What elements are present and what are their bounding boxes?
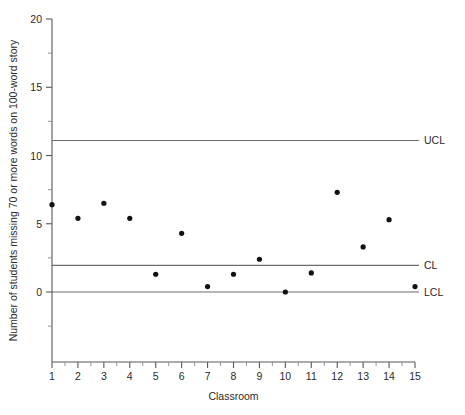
y-axis-title: Number of students missing 70 or more wo…	[7, 39, 19, 341]
data-point	[386, 217, 391, 222]
x-tick-label: 8	[231, 370, 237, 382]
control-limit-lines	[52, 140, 419, 292]
x-tick-label: 9	[257, 370, 263, 382]
x-tick-label: 7	[205, 370, 211, 382]
limit-label-ucl: UCL	[424, 134, 445, 146]
data-point	[257, 257, 262, 262]
data-point	[231, 272, 236, 277]
limit-label-lcl: LCL	[424, 286, 443, 298]
chart-axes	[52, 19, 415, 362]
control-chart: 05101520 123456789101112131415 UCLCLLCLC…	[0, 0, 465, 415]
y-tick-label: 0	[36, 286, 42, 298]
x-tick-label: 10	[280, 370, 292, 382]
data-point	[127, 216, 132, 221]
x-tick-label: 13	[357, 370, 369, 382]
y-tick-label: 20	[30, 13, 42, 25]
limit-label-cl: CL	[424, 259, 438, 271]
x-tick-label: 6	[179, 370, 185, 382]
data-point	[309, 270, 314, 275]
x-tick-label: 11	[306, 370, 317, 382]
x-tick-label: 14	[383, 370, 395, 382]
data-point	[412, 284, 417, 289]
chart-labels: UCLCLLCLClassroomNumber of students miss…	[7, 39, 445, 402]
x-tick-label: 5	[153, 370, 159, 382]
y-tick-label: 10	[30, 150, 42, 162]
data-point	[361, 244, 366, 249]
y-axis-ticks: 05101520	[30, 13, 52, 326]
data-point	[49, 202, 54, 207]
data-point	[153, 272, 158, 277]
data-point	[101, 201, 106, 206]
y-tick-label: 5	[36, 218, 42, 230]
data-point	[283, 289, 288, 294]
x-tick-label: 15	[409, 370, 421, 382]
data-point	[335, 190, 340, 195]
x-tick-label: 2	[75, 370, 81, 382]
x-tick-label: 3	[101, 370, 107, 382]
x-axis-ticks: 123456789101112131415	[49, 362, 421, 382]
x-tick-label: 1	[49, 370, 55, 382]
data-point	[75, 216, 80, 221]
x-axis-title: Classroom	[208, 390, 258, 402]
data-point	[179, 231, 184, 236]
data-point	[205, 284, 210, 289]
data-points	[49, 190, 417, 295]
y-tick-label: 15	[30, 81, 42, 93]
x-tick-label: 12	[331, 370, 343, 382]
x-tick-label: 4	[127, 370, 133, 382]
chart-container: 05101520 123456789101112131415 UCLCLLCLC…	[0, 0, 465, 415]
